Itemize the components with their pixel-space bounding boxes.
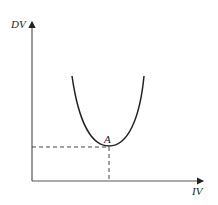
y-axis-label: DV (10, 18, 27, 30)
u-curve-diagram: DV IV A (0, 0, 218, 205)
diagram-canvas: DV IV A (0, 0, 218, 205)
point-a-label: A (103, 133, 111, 145)
x-axis-label: IV (191, 185, 204, 197)
